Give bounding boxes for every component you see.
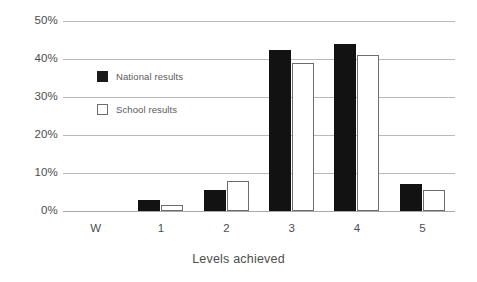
x-axis: W12345 — [63, 222, 455, 242]
bar-1-school — [161, 205, 183, 211]
legend-item-school: School results — [97, 102, 237, 116]
x-axis-tick-label-3: 3 — [288, 222, 294, 234]
bar-4-national — [334, 44, 356, 211]
bar-group-5 — [390, 21, 455, 211]
y-axis-tick-label: 30% — [6, 91, 58, 103]
y-axis-tick-label: 0% — [6, 205, 58, 217]
x-axis-tick-label-1: 1 — [158, 222, 164, 234]
y-axis-tick-label: 20% — [6, 129, 58, 141]
legend-item-national: National results — [97, 69, 237, 83]
y-axis-tick-label: 50% — [6, 15, 58, 27]
bar-3-national — [269, 50, 291, 212]
x-axis-tick-label-2: 2 — [223, 222, 229, 234]
filled-square-icon — [97, 71, 108, 82]
bar-3-school — [292, 63, 314, 211]
bar-2-national — [204, 190, 226, 211]
chart-legend: National results School results — [97, 69, 237, 135]
x-axis-tick-label-4: 4 — [354, 222, 360, 234]
bar-5-national — [400, 184, 422, 211]
bar-4-school — [357, 55, 379, 211]
outlined-square-icon — [97, 104, 108, 115]
x-axis-tick-label-W: W — [90, 222, 101, 234]
bar-chart: 0%10%20%30%40%50% W12345 Levels achieved… — [0, 0, 477, 282]
legend-label-school: School results — [116, 104, 177, 115]
x-axis-tick-label-5: 5 — [419, 222, 425, 234]
bar-5-school — [423, 190, 445, 211]
bar-group-3 — [259, 21, 324, 211]
bar-1-national — [138, 200, 160, 211]
bar-group-4 — [324, 21, 389, 211]
gridline-0pct — [63, 211, 455, 212]
x-axis-title: Levels achieved — [0, 252, 477, 266]
y-axis-tick-label: 40% — [6, 53, 58, 65]
y-axis: 0%10%20%30%40%50% — [0, 0, 58, 282]
legend-label-national: National results — [116, 71, 183, 82]
y-axis-tick-label: 10% — [6, 167, 58, 179]
bar-2-school — [227, 181, 249, 211]
